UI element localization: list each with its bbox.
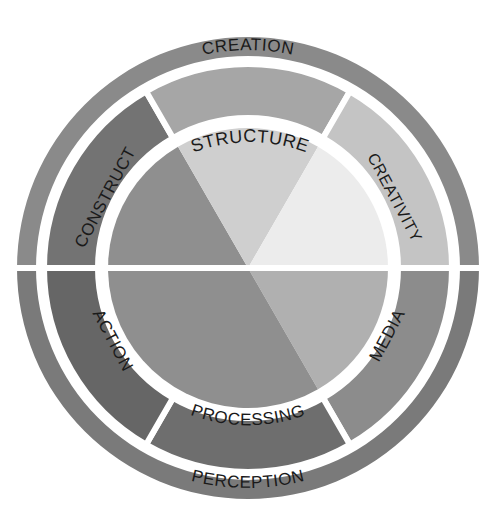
middle-segment-processing	[146, 398, 350, 472]
horizontal-divider	[0, 265, 490, 271]
concept-wheel-diagram: CREATION PERCEPTION STRUCTURE PROCESSING…	[0, 0, 490, 509]
